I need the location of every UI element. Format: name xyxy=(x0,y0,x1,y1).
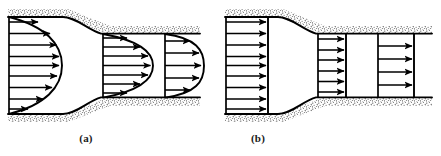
panel-a-diagram xyxy=(8,9,204,122)
panel-a-station-3-arrows xyxy=(165,41,201,90)
panel-a-station-1-arrows xyxy=(9,22,59,109)
panel-b-station-2-arrows xyxy=(318,39,344,92)
panel-b-caption: (b) xyxy=(238,132,278,144)
panel-b-station-2 xyxy=(318,34,346,98)
panel-a-station-2 xyxy=(103,34,153,98)
panel-b-station-1-arrows xyxy=(226,22,266,109)
figure-container: (a) (b) xyxy=(0,0,441,156)
panel-a-caption: (a) xyxy=(66,132,106,144)
panel-b-diagram xyxy=(225,9,432,122)
panel-a-station-1 xyxy=(9,17,62,114)
panel-b-station-3 xyxy=(378,34,414,98)
panel-a-station-3 xyxy=(165,34,204,98)
panel-b-station-1 xyxy=(226,17,268,114)
panel-a-bottom-wall-hatch xyxy=(8,98,200,122)
panel-b-bottom-wall-hatch xyxy=(225,98,432,122)
panel-a-station-2-arrows xyxy=(103,38,151,93)
panel-b-station-3-arrows xyxy=(378,46,412,85)
